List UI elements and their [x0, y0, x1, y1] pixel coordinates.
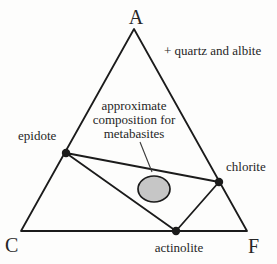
- annotation-line-3: metabasites: [79, 127, 189, 141]
- epidote-label: epidote: [18, 129, 56, 143]
- vertex-label-a: A: [127, 7, 145, 27]
- annotation-line-2: composition for: [79, 113, 189, 127]
- chlorite-label: chlorite: [226, 160, 266, 174]
- actinolite-label: actinolite: [148, 241, 210, 255]
- chlorite-point: [215, 178, 223, 186]
- actinolite-point: [172, 227, 180, 235]
- annotation-text: approximate composition for metabasites: [79, 99, 189, 141]
- acf-diagram: A + quartz and albite approximate compos…: [0, 0, 277, 264]
- epidote-point: [62, 149, 70, 157]
- condition-note: + quartz and albite: [164, 44, 261, 58]
- vertex-label-c: C: [5, 235, 18, 255]
- annotation-line-1: approximate: [79, 99, 189, 113]
- vertex-label-f: F: [248, 236, 259, 256]
- metabasite-composition-ellipse: [138, 176, 170, 202]
